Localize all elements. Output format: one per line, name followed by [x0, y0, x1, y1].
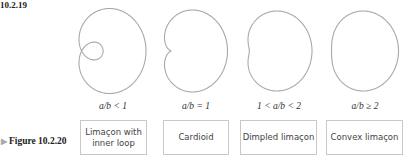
cardioid-curve: [165, 10, 228, 92]
condition-inner-loop: a/b < 1: [80, 101, 146, 111]
condition-dimpled: 1 < a/b < 2: [242, 101, 316, 111]
condition-convex: a/b ≥ 2: [330, 101, 400, 111]
convex-limacon-curve: [332, 11, 399, 91]
label-convex: Convex limaçon: [331, 132, 399, 143]
label-box-cardioid: Cardioid: [163, 120, 229, 155]
label-cardioid: Cardioid: [178, 132, 213, 143]
figure-label-10-2-20: ▶Figure 10.2.20: [1, 136, 67, 146]
limacon-inner-loop-curve: [79, 9, 146, 94]
figure-label-text: Figure 10.2.20: [9, 136, 67, 146]
label-dimpled: Dimpled limaçon: [243, 132, 315, 143]
label-box-convex: Convex limaçon: [326, 120, 403, 155]
condition-cardioid: a/b = 1: [163, 101, 229, 111]
label-inner-loop-line2: inner loop: [85, 138, 142, 149]
dimpled-limacon-curve: [248, 11, 312, 91]
label-box-dimpled: Dimpled limaçon: [240, 120, 317, 155]
figure-marker-icon: ▶: [1, 137, 7, 146]
label-box-inner-loop: Limaçon with inner loop: [80, 120, 147, 155]
label-inner-loop-line1: Limaçon with: [85, 127, 142, 138]
limacon-curves: [0, 0, 405, 100]
